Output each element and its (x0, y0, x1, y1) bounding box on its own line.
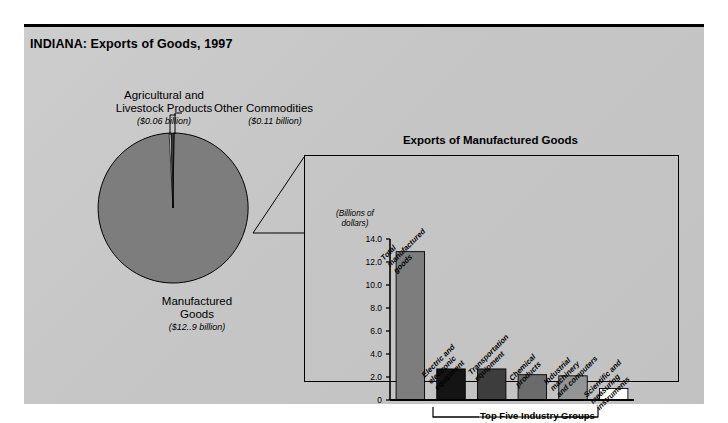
figure-root: INDIANA: Exports of Goods, 1997 Agricult… (0, 0, 728, 423)
bar-1 (396, 252, 424, 400)
y-tick-label: 10.0 (352, 280, 382, 290)
callout-line-upper (253, 157, 304, 233)
figure-panel: INDIANA: Exports of Goods, 1997 Agricult… (24, 24, 704, 404)
bar-chart-title: Exports of Manufactured Goods (304, 134, 677, 146)
y-tick-label: 4.0 (352, 349, 382, 359)
y-tick-label: 14.0 (352, 234, 382, 244)
industry-group-label: Top Five Industry Groups (480, 410, 595, 421)
y-tick-label: 6.0 (352, 326, 382, 336)
y-tick-label: 2.0 (352, 372, 382, 382)
y-tick-label: 0 (352, 395, 382, 405)
y-tick-label: 8.0 (352, 303, 382, 313)
y-tick-label: 12.0 (352, 257, 382, 267)
